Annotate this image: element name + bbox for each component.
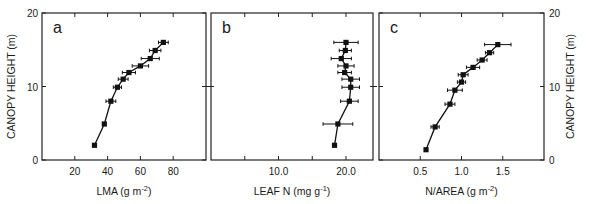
- y-tick-label: 10: [27, 82, 39, 93]
- data-point-marker: [161, 40, 166, 45]
- x-tick-label: 80: [168, 166, 180, 177]
- data-point-marker: [148, 56, 153, 61]
- x-tick-label: 1.5: [496, 166, 510, 177]
- x-tick-label: 1.0: [455, 166, 469, 177]
- data-point-marker: [470, 65, 475, 70]
- x-tick-label: 0.5: [413, 166, 427, 177]
- data-point-marker: [343, 48, 348, 53]
- data-point-marker: [433, 124, 438, 129]
- data-point-marker: [138, 63, 143, 68]
- x-tick-label: 10.0: [269, 166, 289, 177]
- data-point-marker: [335, 121, 340, 126]
- data-point-marker: [495, 42, 500, 47]
- data-point-marker: [343, 40, 348, 45]
- x-tick-label: 60: [135, 166, 147, 177]
- x-axis-label: LEAF N (mg g-1): [254, 184, 331, 197]
- panel-letter: c: [390, 19, 398, 36]
- data-point-marker: [459, 79, 464, 84]
- data-point-marker: [447, 102, 452, 107]
- data-point-marker: [461, 72, 466, 77]
- y-tick-label: 0: [32, 155, 38, 166]
- data-point-marker: [487, 50, 492, 55]
- data-point-marker: [480, 57, 485, 62]
- data-point-marker: [102, 121, 107, 126]
- y-tick-label: 20: [27, 8, 39, 19]
- data-point-marker: [348, 77, 353, 82]
- x-tick-label: 20: [69, 166, 81, 177]
- panel-b-leaf-n: 10.020.0bLEAF N (mg g-1): [206, 13, 377, 197]
- data-point-marker: [332, 143, 337, 148]
- data-point-marker: [423, 147, 428, 152]
- y-tick-label: 10: [549, 82, 561, 93]
- panel-letter: a: [53, 19, 62, 36]
- series-line: [94, 42, 163, 145]
- data-point-marker: [126, 70, 131, 75]
- data-point-marker: [115, 85, 120, 90]
- x-tick-label: 40: [102, 166, 114, 177]
- plot-frame: [42, 13, 206, 160]
- x-axis-label: N/AREA (g m-2): [425, 184, 498, 197]
- data-point-marker: [108, 99, 113, 104]
- y-axis-label: CANOPY HEIGHT (m): [564, 34, 576, 139]
- plot-frame: [379, 13, 544, 160]
- data-point-marker: [347, 99, 352, 104]
- y-tick-label: 0: [549, 155, 555, 166]
- y-axis-label: CANOPY HEIGHT (m): [5, 34, 17, 139]
- data-point-marker: [121, 77, 126, 82]
- panel-a-lma: 2040608001020aLMA (g m-2)CANOPY HEIGHT (…: [5, 8, 206, 197]
- data-point-marker: [452, 88, 457, 93]
- data-point-marker: [153, 48, 158, 53]
- data-point-marker: [92, 143, 97, 148]
- x-tick-label: 20.0: [336, 166, 356, 177]
- y-tick-label: 20: [549, 8, 561, 19]
- data-point-marker: [343, 63, 348, 68]
- data-point-marker: [339, 56, 344, 61]
- panel-c-n-area: 0.51.01.501020cN/AREA (g m-2)CANOPY HEIG…: [379, 8, 576, 197]
- panel-letter: b: [222, 19, 231, 36]
- figure: 2040608001020aLMA (g m-2)CANOPY HEIGHT (…: [0, 0, 589, 204]
- data-point-marker: [342, 70, 347, 75]
- data-point-marker: [348, 85, 353, 90]
- x-axis-label: LMA (g m-2): [96, 184, 151, 197]
